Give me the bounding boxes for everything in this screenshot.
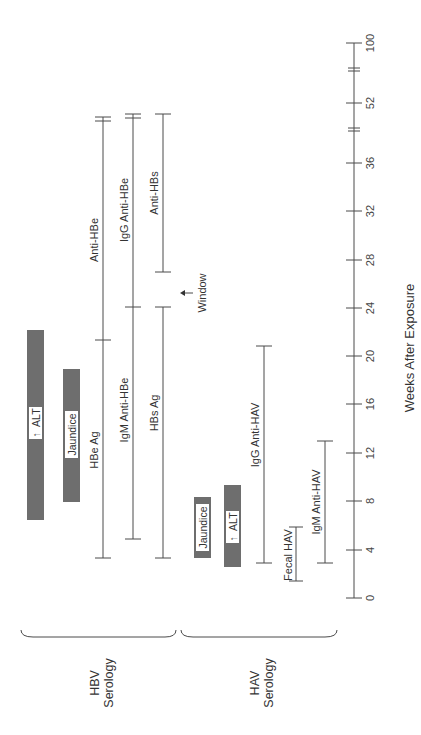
anti-hbs-label: Anti-HBs <box>148 171 160 215</box>
tick-label: 28 <box>364 254 376 266</box>
hbe-ag-anti-hbe-track: HBe Ag Anti-HBe <box>88 117 111 558</box>
alt-label: ALT <box>30 408 42 427</box>
svg-text:↑ ALT: ↑ ALT <box>30 408 42 438</box>
tick-label: 100 <box>364 34 376 52</box>
hav-group-label-line1: HAV <box>248 670 262 695</box>
hbv-group-label-line1: HBV <box>88 669 102 695</box>
svg-text:↑ ALT: ↑ ALT <box>227 512 239 542</box>
jaundice-label: Jaundice <box>66 413 78 455</box>
up-arrow-icon: ↑ <box>30 432 42 437</box>
hbv-brace <box>21 630 176 637</box>
fecal-hav-label: Fecal HAV <box>282 528 294 580</box>
igg-anti-hbe-label: IgG Anti-HBe <box>118 178 130 242</box>
hav-alt-bar: ↑ ALT <box>224 485 241 567</box>
tick-label: 36 <box>364 157 376 169</box>
jaundice-label: Jaundice <box>197 506 209 548</box>
tick-label: 16 <box>364 398 376 410</box>
hbs-ag-label: HBs Ag <box>148 395 160 432</box>
hav-brace <box>181 630 337 637</box>
window-annotation: Window <box>180 273 208 312</box>
igg-anti-hav-track: IgG Anti-HAV <box>249 346 272 563</box>
igm-anti-hav-label: IgM Anti-HAV <box>310 469 322 535</box>
tick-label: 32 <box>364 205 376 217</box>
serology-diagram: 0 4 8 12 16 20 24 28 32 36 52 100 Weeks … <box>0 0 421 735</box>
hbv-alt-bar: ↑ ALT <box>27 330 44 520</box>
fecal-hav-track: Fecal HAV <box>282 527 303 581</box>
igg-anti-hav-label: IgG Anti-HAV <box>249 402 261 467</box>
hav-jaundice-bar: Jaundice <box>194 497 211 558</box>
tick-label: 20 <box>364 350 376 362</box>
weeks-axis: 0 4 8 12 16 20 24 28 32 36 52 100 Weeks … <box>346 34 417 601</box>
igm-anti-hbe-label: IgM Anti-HBe <box>118 378 130 443</box>
igm-anti-hav-track: IgM Anti-HAV <box>310 441 333 563</box>
tick-label: 8 <box>364 498 376 504</box>
tick-label: 0 <box>364 595 376 601</box>
tick-label: 52 <box>364 97 376 109</box>
window-label: Window <box>196 273 208 312</box>
hbv-group-label-line2: Serology <box>102 658 116 708</box>
hbv-jaundice-bar: Jaundice <box>63 369 80 502</box>
hbs-ag-anti-hbs-track: HBs Ag Anti-HBs <box>148 114 171 558</box>
anti-hbe-label: Anti-HBe <box>88 218 100 262</box>
axis-title: Weeks After Exposure <box>402 284 417 412</box>
alt-label: ALT <box>227 512 239 531</box>
tick-label: 4 <box>364 547 376 553</box>
tick-label: 12 <box>364 447 376 459</box>
anti-hbe-igm-igg-track: IgM Anti-HBe IgG Anti-HBe <box>118 114 141 539</box>
hbe-ag-label: HBe Ag <box>88 431 100 468</box>
up-arrow-icon: ↑ <box>227 536 239 541</box>
left-arrow-icon <box>180 290 185 296</box>
tick-label: 24 <box>364 302 376 314</box>
hav-group-label-line2: Serology <box>262 658 276 708</box>
